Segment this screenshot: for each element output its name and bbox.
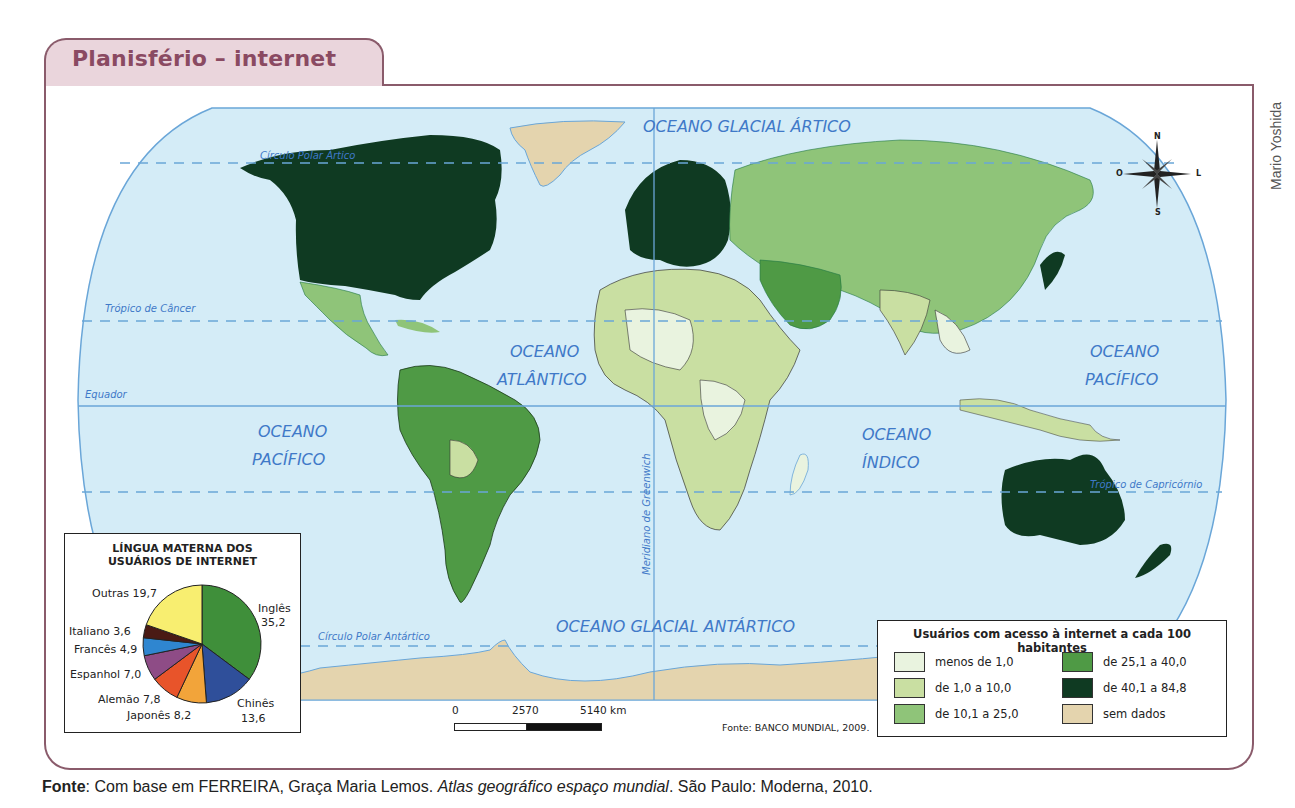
map-legend: Usuários com acesso à internet a cada 10… <box>877 620 1227 737</box>
scale-segment-black <box>526 723 602 731</box>
label-tropic-cancer: Trópico de Câncer <box>105 303 196 314</box>
scale-mid: 2570 <box>512 704 539 716</box>
legend-item: de 25,1 a 40,0 <box>1062 651 1187 673</box>
label-indian-1: OCEANO <box>862 425 931 444</box>
pie-label-ingles-value: 35,2 <box>261 616 286 629</box>
legend-item: de 1,0 a 10,0 <box>894 677 1011 699</box>
compass-west: O <box>1116 169 1123 178</box>
footer-label: Fonte <box>42 778 86 795</box>
legend-label: de 40,1 a 84,8 <box>1103 681 1187 695</box>
pie-label-alemao: Alemão 7,8 <box>98 693 161 706</box>
pie-label-espanhol: Espanhol 7,0 <box>70 668 141 681</box>
scale-zero: 0 <box>452 704 459 716</box>
pie-label-japones: Japonês 8,2 <box>127 709 191 722</box>
label-indian-2: ÍNDICO <box>862 453 920 472</box>
label-pacific-east-1: OCEANO <box>1090 342 1159 361</box>
language-pie-chart: LÍNGUA MATERNA DOS USUÁRIOS DE INTERNET … <box>64 533 301 733</box>
label-tropic-capricorn: Trópico de Capricórnio <box>1090 479 1202 490</box>
legend-swatch <box>894 704 925 724</box>
legend-label: menos de 1,0 <box>935 655 1014 669</box>
label-greenwich: Meridiano de Greenwich <box>641 453 652 575</box>
pie-title-line-2: USUÁRIOS DE INTERNET <box>65 555 300 568</box>
compass-east: L <box>1196 169 1201 178</box>
footer-text-2: . São Paulo: Moderna, 2010. <box>669 778 873 795</box>
label-antarctic-ocean: OCEANO GLACIAL ANTÁRTICO <box>556 617 795 636</box>
pie-label-outras: Outras 19,7 <box>92 587 157 600</box>
pie-graphic <box>141 583 263 705</box>
label-pacific-west-2: PACÍFICO <box>252 450 325 469</box>
legend-label: sem dados <box>1103 707 1166 721</box>
label-pacific-east-2: PACÍFICO <box>1085 370 1158 389</box>
label-arctic-circle: Círculo Polar Ártico <box>260 149 355 161</box>
label-arctic-ocean: OCEANO GLACIAL ÁRTICO <box>643 117 851 136</box>
footer-source: Fonte: Com base em FERREIRA, Graça Maria… <box>42 778 873 796</box>
compass-south: S <box>1155 208 1161 217</box>
pie-label-ingles-name: Inglês <box>258 602 291 615</box>
scale-end: 5140 km <box>580 704 626 716</box>
legend-swatch <box>894 652 925 672</box>
pie-label-chines-name: Chinês <box>237 697 274 710</box>
compass-icon <box>1112 128 1202 220</box>
compass-north: N <box>1154 132 1161 141</box>
legend-swatch <box>1062 704 1093 724</box>
footer-text-1: : Com base em FERREIRA, Graça Maria Lemo… <box>86 778 438 795</box>
pie-label-italiano: Italiano 3,6 <box>69 625 131 638</box>
legend-swatch <box>894 678 925 698</box>
legend-label: de 1,0 a 10,0 <box>935 681 1011 695</box>
legend-label: de 10,1 a 25,0 <box>935 707 1019 721</box>
legend-swatch <box>1062 678 1093 698</box>
label-atlantic-1: OCEANO <box>510 342 579 361</box>
footer-book-title: Atlas geográfico espaço mundial <box>438 778 669 795</box>
legend-item: menos de 1,0 <box>894 651 1014 673</box>
label-pacific-west-1: OCEANO <box>258 422 327 441</box>
label-atlantic-2: ATLÂNTICO <box>496 370 587 389</box>
scale-segment-white <box>454 723 528 731</box>
compass-rose: N S L O <box>1112 128 1202 220</box>
legend-item: sem dados <box>1062 703 1166 725</box>
legend-item: de 40,1 a 84,8 <box>1062 677 1187 699</box>
map-source: Fonte: BANCO MUNDIAL, 2009. <box>722 722 869 733</box>
pie-label-chines-value: 13,6 <box>241 712 266 725</box>
legend-swatch <box>1062 652 1093 672</box>
pie-label-frances: Francês 4,9 <box>74 643 137 656</box>
pie-title-line-1: LÍNGUA MATERNA DOS <box>65 542 300 555</box>
legend-label: de 25,1 a 40,0 <box>1103 655 1187 669</box>
label-antarctic-circle: Círculo Polar Antártico <box>318 631 430 642</box>
scale-bar: 0 2570 5140 km <box>450 704 630 738</box>
pie-title: LÍNGUA MATERNA DOS USUÁRIOS DE INTERNET <box>65 542 300 568</box>
label-equator: Equador <box>85 389 128 400</box>
legend-item: de 10,1 a 25,0 <box>894 703 1019 725</box>
